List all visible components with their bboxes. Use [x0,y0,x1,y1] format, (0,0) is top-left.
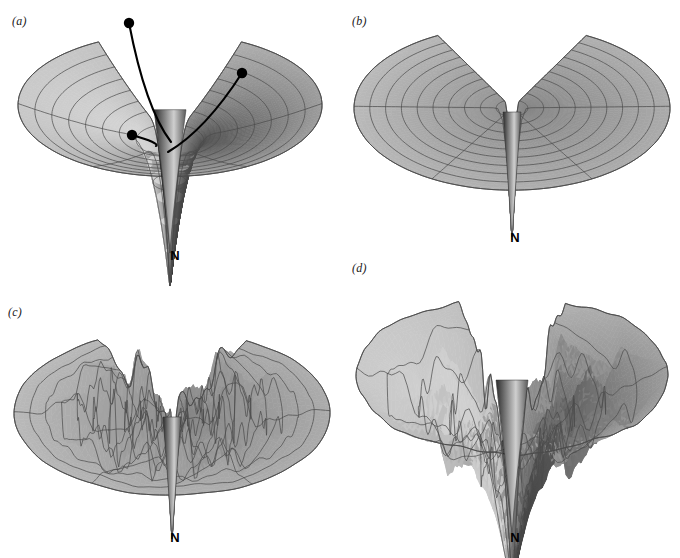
panel-c-label: (c) [8,305,22,320]
panel-b-label: (b) [352,14,367,29]
panel-d-surface [340,255,680,558]
panel-d-pole-label: N [505,530,525,545]
panel-b-pole-label: N [505,230,525,245]
panel-b: (b) N [340,0,680,279]
panel-c-pole-label: N [165,530,185,545]
panel-a: (a) N [0,0,340,279]
panel-a-pole-label: N [165,248,185,263]
panel-c-surface [0,279,340,558]
panel-a-label: (a) [12,14,27,29]
panel-d-label: (d) [352,261,367,276]
panel-a-surface [0,0,340,279]
figure-canvas: (a) N (b) N (c) N (d) N [0,0,680,558]
panel-d: (d) N [340,255,680,558]
panel-c: (c) N [0,279,340,558]
